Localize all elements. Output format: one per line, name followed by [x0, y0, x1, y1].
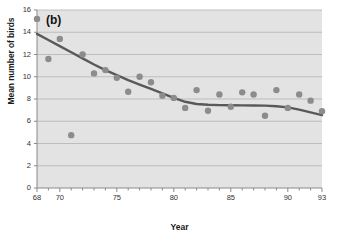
y-tick-label: 4	[7, 139, 31, 148]
data-point	[125, 89, 131, 95]
data-point	[216, 91, 222, 97]
x-axis-ticks	[37, 188, 322, 192]
data-point	[136, 74, 142, 80]
data-point	[319, 108, 325, 114]
data-point	[102, 67, 108, 73]
x-tick-label: 68	[25, 193, 49, 202]
chart-figure: Mean number of birds Year (b) 0246810121…	[0, 0, 338, 237]
x-tick-label: 80	[162, 193, 186, 202]
data-point	[182, 105, 188, 111]
data-point	[171, 95, 177, 101]
data-point	[34, 16, 40, 22]
y-axis-label: Mean number of birds	[6, 0, 16, 126]
x-tick-label: 85	[219, 193, 243, 202]
data-point	[205, 107, 211, 113]
x-tick-label: 90	[276, 193, 300, 202]
data-point	[114, 75, 120, 81]
data-point	[285, 105, 291, 111]
y-tick-label: 6	[7, 116, 31, 125]
data-point	[273, 87, 279, 93]
y-tick-label: 10	[7, 72, 31, 81]
data-point	[239, 89, 245, 95]
y-tick-label: 14	[7, 27, 31, 36]
y-tick-label: 2	[7, 161, 31, 170]
data-point	[68, 132, 74, 138]
y-tick-label: 16	[7, 5, 31, 14]
data-point	[79, 51, 85, 57]
y-tick-label: 0	[7, 183, 31, 192]
data-point	[262, 112, 268, 118]
data-point	[228, 104, 234, 110]
data-point	[91, 70, 97, 76]
x-tick-label: 70	[48, 193, 72, 202]
data-point	[296, 91, 302, 97]
data-point	[307, 97, 313, 103]
data-point	[45, 56, 51, 62]
data-point	[57, 36, 63, 42]
data-point	[159, 92, 165, 98]
panel-label: (b)	[46, 13, 61, 27]
x-tick-label: 93	[310, 193, 334, 202]
y-tick-label: 8	[7, 94, 31, 103]
data-point	[148, 79, 154, 85]
data-point	[193, 87, 199, 93]
data-point	[250, 91, 256, 97]
x-tick-label: 75	[105, 193, 129, 202]
y-tick-label: 12	[7, 50, 31, 59]
x-axis-label: Year	[37, 222, 322, 232]
